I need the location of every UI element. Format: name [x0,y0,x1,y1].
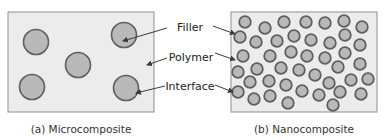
filler-particle [296,85,308,97]
filler-particle [248,93,260,105]
filler-particle [244,76,256,88]
filler-particle [313,89,325,101]
filler-particle [327,99,339,111]
filler-particle [293,64,305,76]
filler-particle [332,61,344,73]
filler-particle [24,30,49,55]
filler-particle [259,22,271,34]
filler-particle [345,74,357,86]
filler-particle [66,53,91,78]
filler-particle [263,75,275,87]
filler-particle [339,29,351,41]
polymer-label: Polymer [169,51,214,64]
filler-particle [309,69,321,81]
filler-label: Filler [177,21,203,34]
filler-particle [264,50,276,62]
filler-particle [112,23,137,48]
filler-particle [264,90,276,102]
filler-particle [232,86,244,98]
filler-particle [305,34,317,46]
interface-label: Interface [165,80,214,93]
filler-particle [324,37,336,49]
filler-particle [280,79,292,91]
filler-particle [275,62,287,74]
filler-particle [319,52,331,64]
filler-particle [234,31,246,43]
filler-particle [232,66,244,78]
filler-particle [356,21,368,33]
filler-particle [338,15,350,27]
filler-particle [362,73,374,85]
filler-particle [354,39,366,51]
composite-diagram: (a) Microcomposite (b) Nanocomposite Fil… [0,0,385,140]
filler-particle [323,77,335,89]
filler-particle [300,16,312,28]
filler-particle [319,17,331,29]
microcomposite-caption: (a) Microcomposite [31,123,132,135]
nanocomposite-panel: (b) Nanocomposite [231,12,377,135]
filler-particle [237,50,249,62]
filler-particle [250,36,262,48]
filler-particle [20,75,45,100]
microcomposite-panel: (a) Microcomposite [8,12,154,135]
filler-particle [271,35,283,47]
filler-particle [278,16,290,28]
filler-particle [251,63,263,75]
filler-particle [114,76,139,101]
filler-particle [355,88,367,100]
component-labels: Filler Polymer Interface [165,21,214,93]
nanocomposite-caption: (b) Nanocomposite [254,123,354,135]
filler-particle [239,16,251,28]
filler-particle [285,46,297,58]
filler-particle [288,30,300,42]
filler-particle [282,97,294,109]
filler-particle [354,58,366,70]
filler-particle [334,86,346,98]
filler-particle [339,47,351,59]
filler-particle [301,50,313,62]
interface-arrow-right [215,85,233,92]
